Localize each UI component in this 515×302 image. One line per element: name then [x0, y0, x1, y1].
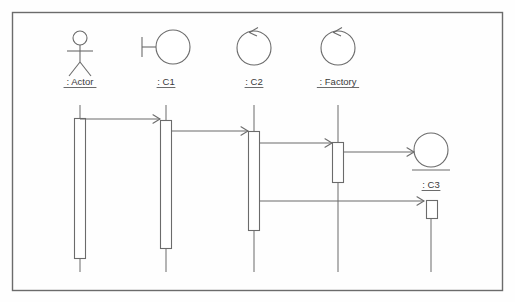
participant-label-c2: : C2 [245, 76, 262, 87]
diagram-canvas: : Actor: C1: C2: Factory: C3 [0, 0, 515, 302]
participant-label-factory: : Factory [320, 76, 357, 87]
activation-bar-c3 [427, 201, 438, 219]
actor-right-leg-icon [80, 62, 91, 76]
participant-label-actor: : Actor [67, 76, 94, 87]
participant-label-c3: : C3 [422, 179, 439, 190]
control-circle-icon [321, 31, 355, 65]
boundary-circle-icon [156, 30, 190, 64]
control-circle-icon [237, 31, 271, 65]
activation-bar-c1 [161, 121, 172, 249]
actor-left-leg-icon [69, 62, 80, 76]
uml-sequence-diagram: : Actor: C1: C2: Factory: C3 [0, 0, 515, 302]
entity-circle-icon [414, 133, 448, 167]
activation-bar-factory [333, 143, 344, 183]
participant-label-c1: : C1 [157, 76, 174, 87]
activation-bar-c2 [249, 132, 260, 231]
activation-bar-actor [75, 119, 86, 259]
actor-head-icon [73, 31, 87, 45]
